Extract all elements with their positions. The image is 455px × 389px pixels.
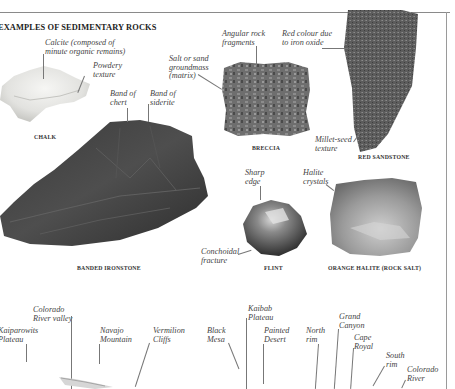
landscape-label-grand-canyon: Grand Canyon <box>339 313 364 330</box>
chalk-image <box>0 56 95 126</box>
landscape-label-colorado-river-valley: Colorado River valley <box>33 306 72 323</box>
leader-line <box>260 186 261 200</box>
leader-line <box>350 348 354 389</box>
halite-label-crystals: Halite crystals <box>303 169 328 186</box>
ironstone-label-chert: Band of chert <box>110 90 136 107</box>
right-rule-divider <box>446 12 447 389</box>
leader-line <box>373 366 385 386</box>
chalk-label-powdery: Powdery texture <box>93 62 122 79</box>
banded-ironstone-image <box>0 118 220 258</box>
landscape-label-north-rim: North rim <box>306 327 325 344</box>
landscape-label-vermilion-cliffs: Vermilion Cliffs <box>153 327 185 344</box>
landscape-terrain-sliver <box>55 373 115 389</box>
leader-line <box>43 54 44 79</box>
orange-halite-caption: ORANGE HALITE (ROCK SALT) <box>328 265 421 271</box>
leader-line <box>246 318 247 389</box>
breccia-image <box>220 60 310 138</box>
breccia-caption: BRECCIA <box>252 145 280 151</box>
section-heading: EXAMPLES OF SEDIMENTARY ROCKS <box>0 23 156 32</box>
leader-line <box>334 329 339 389</box>
leader-line <box>263 344 264 384</box>
flint-image <box>243 198 309 258</box>
leader-line <box>256 46 257 66</box>
flint-label-conchoidal: Conchoidal fracture <box>201 248 239 265</box>
banded-ironstone-caption: BANDED IRONSTONE <box>77 265 141 271</box>
landscape-label-kaiparowits-plateau: Kaiparowits Plateau <box>0 327 38 344</box>
ironstone-label-siderite: Band of siderite <box>150 90 176 107</box>
landscape-label-navajo-mountain: Navajo Mountain <box>100 327 132 344</box>
landscape-label-black-mesa: Black Mesa <box>207 327 226 344</box>
red-sandstone-image <box>342 8 422 153</box>
leader-line <box>228 343 239 369</box>
sandstone-label-millet-seed: Millet-seed texture <box>315 136 352 153</box>
flint-label-sharp-edge: Sharp edge <box>245 169 265 186</box>
leader-line <box>99 344 100 364</box>
landscape-label-south-rim: South rim <box>386 352 405 369</box>
leader-line <box>322 48 348 49</box>
leader-line <box>401 380 406 389</box>
landscape-label-painted-desert: Painted Desert <box>264 327 289 344</box>
landscape-label-cape-royal: Cape Royal <box>354 334 373 351</box>
orange-halite-image <box>330 178 422 258</box>
leader-line <box>198 74 222 90</box>
sandstone-label-iron-oxide: Red colour due to iron oxide <box>282 30 332 47</box>
leader-line <box>26 344 27 362</box>
leader-line <box>127 108 128 122</box>
landscape-label-colorado-river: Colorado River <box>407 366 438 383</box>
landscape-label-kaibab-plateau: Kaibab Plateau <box>248 305 273 322</box>
encyclopedia-page: EXAMPLES OF SEDIMENTARY ROCKS Calcite (c… <box>0 0 455 389</box>
leader-line <box>135 343 150 387</box>
leader-line <box>315 344 319 389</box>
flint-caption: FLINT <box>264 265 283 271</box>
breccia-label-angular: Angular rock fragments <box>222 30 265 47</box>
chalk-label-calcite: Calcite (composed of minute organic rema… <box>45 39 125 56</box>
leader-line <box>148 104 149 122</box>
red-sandstone-caption: RED SANDSTONE <box>358 154 410 160</box>
